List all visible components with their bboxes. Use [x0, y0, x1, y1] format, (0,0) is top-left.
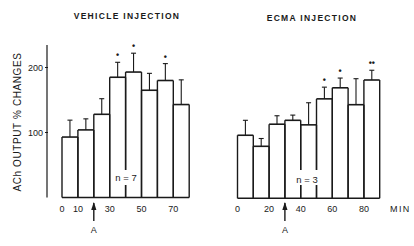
bar: •: [157, 52, 173, 198]
y-tick-label: 200: [28, 63, 43, 73]
ecma-injection-panel: ECMA INJECTION •••• 020406080 A n = 3 MI…: [235, 13, 411, 235]
significance-marker: ••: [369, 58, 375, 68]
bar: •: [317, 75, 333, 198]
bar: [285, 115, 301, 198]
x-tick-label: 0: [235, 204, 240, 214]
significance-marker: •: [323, 75, 326, 85]
bar: [62, 120, 78, 197]
y-tick-label: 100: [28, 128, 43, 138]
arrow-label: A: [91, 225, 97, 235]
vehicle-x-ticks: 010305070: [59, 204, 178, 214]
arrow-marker: A: [91, 202, 97, 235]
bar: [173, 80, 189, 198]
significance-marker: •: [132, 41, 135, 51]
vehicle-injection-panel: VEHICLE INJECTION 100200 ••• 010305070 A…: [28, 11, 189, 235]
x-unit-label: MIN: [390, 204, 411, 214]
figure: ACh OUTPUT % CHANGES VEHICLE INJECTION 1…: [0, 0, 414, 246]
x-tick-label: 60: [327, 204, 337, 214]
bar: [253, 139, 269, 199]
bar: ••: [364, 58, 380, 198]
bar: [142, 73, 158, 197]
x-tick-label: 0: [59, 204, 64, 214]
bar: [78, 119, 94, 198]
bar: [94, 99, 110, 198]
bar: [348, 79, 364, 199]
x-tick-label: 10: [73, 204, 83, 214]
n-label: n = 3: [296, 174, 317, 185]
arrow-label: A: [282, 225, 288, 235]
significance-marker: •: [164, 52, 167, 62]
x-tick-label: 20: [264, 204, 274, 214]
bar: •: [332, 66, 348, 198]
x-tick-label: 40: [296, 204, 306, 214]
x-tick-label: 80: [359, 204, 369, 214]
x-tick-label: 50: [136, 204, 146, 214]
y-axis-label: ACh OUTPUT % CHANGES: [12, 52, 23, 191]
ecma-panel-title: ECMA INJECTION: [267, 13, 358, 23]
ecma-x-ticks: 020406080: [235, 204, 369, 214]
arrow-marker: A: [282, 202, 288, 235]
n-label: n = 7: [115, 172, 136, 183]
y-axis: 100200: [28, 45, 48, 198]
significance-marker: •: [116, 50, 119, 60]
x-tick-label: 70: [168, 204, 178, 214]
significance-marker: •: [339, 66, 342, 76]
bar: [269, 116, 285, 199]
bar: [238, 120, 254, 198]
vehicle-panel-title: VEHICLE INJECTION: [74, 11, 181, 21]
x-tick-label: 30: [105, 204, 115, 214]
